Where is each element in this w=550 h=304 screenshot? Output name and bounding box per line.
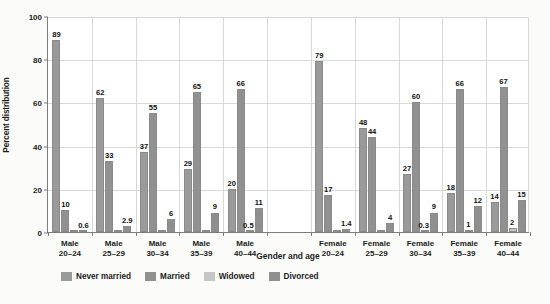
- bar[interactable]: [386, 223, 394, 232]
- bar-slot: 2: [509, 17, 517, 232]
- x-tick-mark: [267, 232, 268, 236]
- bar[interactable]: [167, 219, 175, 232]
- bar-group-bars: 62332.9: [92, 17, 136, 232]
- legend-swatch: [145, 272, 156, 281]
- bar-group: 37556Male30–34: [136, 17, 180, 232]
- bar-slot: 67: [500, 17, 508, 232]
- bar[interactable]: [491, 202, 499, 232]
- bar-slot: 12: [474, 17, 482, 232]
- bar[interactable]: [500, 87, 508, 232]
- bar[interactable]: [140, 152, 148, 232]
- bar[interactable]: [52, 40, 60, 232]
- legend-item[interactable]: Married: [145, 272, 190, 281]
- bar-value-label: 67: [499, 78, 507, 86]
- bar-value-label: 60: [412, 93, 420, 101]
- bar[interactable]: [105, 161, 113, 232]
- bar-slot: 10: [61, 17, 69, 232]
- bar-slot: 66: [237, 17, 245, 232]
- bar[interactable]: [403, 174, 411, 232]
- bar[interactable]: [96, 98, 104, 232]
- bar[interactable]: [368, 137, 376, 232]
- bar[interactable]: [359, 128, 367, 232]
- x-tick-mark: [486, 232, 487, 236]
- bar-value-label: 9: [213, 203, 217, 211]
- legend-label: Never married: [76, 272, 131, 281]
- bar-value-label: 79: [315, 52, 323, 60]
- bar-value-label: 44: [368, 128, 376, 136]
- bar-value-label: 89: [52, 31, 60, 39]
- y-tick-label: 0: [38, 229, 42, 238]
- bar-slot: [70, 17, 78, 232]
- bar[interactable]: [333, 230, 341, 232]
- bar[interactable]: [114, 230, 122, 232]
- bar[interactable]: [465, 230, 473, 232]
- bar-slot: 0.3: [421, 17, 429, 232]
- bar[interactable]: [315, 61, 323, 232]
- x-tick-label-gender: Male: [136, 239, 180, 249]
- bar-slot: 17: [324, 17, 332, 232]
- plot-area: 02040608010089100.6Male20–2462332.9Male2…: [47, 17, 529, 233]
- bar-value-label: 4: [388, 214, 392, 222]
- bar[interactable]: [412, 102, 420, 232]
- bar-group: 89100.6Male20–24: [48, 17, 92, 232]
- bar-value-label: 66: [236, 80, 244, 88]
- legend-item[interactable]: Divorced: [269, 272, 319, 281]
- bar-slot: 60: [412, 17, 420, 232]
- bar-slot: 44: [368, 17, 376, 232]
- bar[interactable]: [237, 89, 245, 232]
- bar-slot: 29: [184, 17, 192, 232]
- legend-item[interactable]: Widowed: [204, 272, 255, 281]
- bar-value-label: 62: [96, 89, 104, 97]
- bar[interactable]: [79, 230, 87, 232]
- x-tick-label-gender: Male: [179, 239, 223, 249]
- legend-item[interactable]: Never married: [61, 272, 131, 281]
- bar-slot: [289, 17, 297, 232]
- bar[interactable]: [184, 169, 192, 232]
- bar[interactable]: [61, 210, 69, 232]
- bar-value-label: 9: [432, 203, 436, 211]
- bar[interactable]: [456, 89, 464, 232]
- bar-group-bars: 1467215: [486, 17, 530, 232]
- bar[interactable]: [70, 230, 78, 232]
- x-tick-mark: [311, 232, 312, 236]
- x-tick-label-gender: Female: [442, 239, 486, 249]
- bar-slot: 15: [518, 17, 526, 232]
- legend-swatch: [269, 272, 280, 281]
- bar-group: 48444Female25–29: [355, 17, 399, 232]
- bar-group-bars: 1866112: [442, 17, 486, 232]
- bar-value-label: 48: [359, 119, 367, 127]
- bar[interactable]: [421, 230, 429, 232]
- bar-group-bars: 29659: [179, 17, 223, 232]
- bar[interactable]: [202, 230, 210, 232]
- bar-slot: 20: [228, 17, 236, 232]
- bar[interactable]: [255, 208, 263, 232]
- bar[interactable]: [324, 195, 332, 232]
- bar[interactable]: [228, 189, 236, 232]
- bar[interactable]: [518, 200, 526, 232]
- bar[interactable]: [474, 206, 482, 232]
- bar[interactable]: [158, 230, 166, 232]
- bar[interactable]: [447, 193, 455, 232]
- bar[interactable]: [509, 228, 517, 232]
- bar[interactable]: [123, 226, 131, 232]
- x-tick-mark: [136, 232, 137, 236]
- bar[interactable]: [246, 230, 254, 232]
- chart-figure: Percent distribution 02040608010089100.6…: [0, 0, 550, 304]
- bar-value-label: 1: [466, 221, 470, 229]
- bar[interactable]: [211, 213, 219, 232]
- bar[interactable]: [149, 113, 157, 232]
- bar-slot: 79: [315, 17, 323, 232]
- x-tick-mark: [92, 232, 93, 236]
- bar-slot: [280, 17, 288, 232]
- bar-slot: 33: [105, 17, 113, 232]
- bar-value-label: 65: [193, 83, 201, 91]
- bar[interactable]: [430, 213, 438, 232]
- bar[interactable]: [342, 229, 350, 232]
- x-axis-title: Gender and age: [47, 251, 529, 261]
- bar-group-bars: 79171.4: [311, 17, 355, 232]
- bar-slot: 4: [386, 17, 394, 232]
- bar[interactable]: [193, 92, 201, 232]
- bar[interactable]: [377, 230, 385, 232]
- y-tick-label: 80: [33, 56, 42, 65]
- x-tick-label-gender: Female: [311, 239, 355, 249]
